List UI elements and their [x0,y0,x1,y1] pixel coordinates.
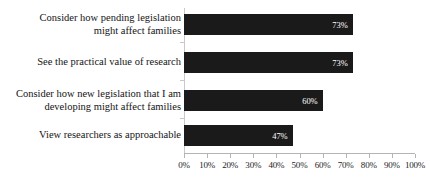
category-label: Consider how pending legislation might a… [3,12,181,37]
value-axis-tick [253,154,254,158]
value-axis-tick [184,154,185,158]
category-label: Consider how new legislation that I am d… [3,88,181,113]
category-label: See the practical value of research [3,56,181,69]
value-axis-tick-label: 100% [401,160,429,170]
value-axis-tick [207,154,208,158]
value-axis-tick [300,154,301,158]
bar: 60% [184,90,323,111]
bar-value-label: 73% [332,58,347,68]
value-axis-tick [346,154,347,158]
value-axis-tick [323,154,324,158]
bar-value-label: 73% [332,20,347,30]
value-axis-tick [276,154,277,158]
category-label: View researchers as approachable [3,129,181,142]
bar-value-label: 60% [302,96,317,106]
category-axis-tick [180,42,184,43]
bar: 73% [184,52,353,73]
bar-value-label: 47% [272,131,287,141]
value-axis-tick [415,154,416,158]
category-axis-tick [180,80,184,81]
bar: 73% [184,14,353,35]
value-axis-tick [392,154,393,158]
bar-chart: 73%Consider how pending legislation migh… [0,0,430,182]
value-axis-tick [230,154,231,158]
value-axis-tick [369,154,370,158]
category-axis-tick [180,118,184,119]
bar: 47% [184,125,293,146]
